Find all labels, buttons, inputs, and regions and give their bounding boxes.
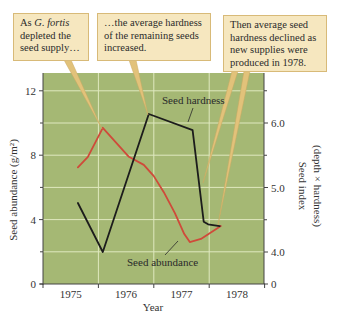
right-tick-label: 0 <box>271 278 277 290</box>
callout-text: depleted the seed supply… <box>20 30 80 54</box>
left-tick-label: 0 <box>31 278 37 290</box>
hardness-series-label: Seed hardness <box>162 94 225 106</box>
x-tick-label: 1975 <box>60 288 83 300</box>
left-tick-label: 8 <box>31 149 37 161</box>
left-tick-label: 4 <box>31 214 37 226</box>
callout-hardness-declined: Then average seed hardness declined as n… <box>223 15 327 72</box>
right-axis-subtitle: (depth × hardness) <box>312 145 324 227</box>
x-tick-label: 1977 <box>171 288 194 300</box>
callout-text: …the average hardness of the remaining s… <box>104 17 202 53</box>
callout-text: Then average seed hardness declined as n… <box>230 19 316 68</box>
callout-depleted: As G. fortis depleted the seed supply… <box>13 13 89 61</box>
right-tick-label: 4.0 <box>271 246 285 258</box>
right-tick-label: 6.0 <box>271 117 285 129</box>
left-tick-label: 12 <box>25 85 36 97</box>
x-tick-label: 1978 <box>226 288 249 300</box>
x-axis-title: Year <box>143 301 163 313</box>
right-tick-label: 5.0 <box>271 182 285 194</box>
right-axis-title: Seed index <box>297 162 309 211</box>
abundance-series-label: Seed abundance <box>127 256 198 268</box>
callout-text: As <box>20 17 34 28</box>
left-axis-title: Seed abundance (g/m²) <box>7 139 19 241</box>
callout-hardness-increased: …the average hardness of the remaining s… <box>97 13 211 61</box>
species-name: G. fortis <box>34 17 69 28</box>
x-tick-label: 1976 <box>115 288 138 300</box>
